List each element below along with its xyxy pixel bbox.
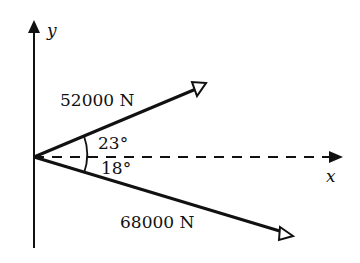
lower-force-label: 68000 N: [120, 212, 194, 232]
y-axis-arrowhead-icon: [28, 20, 40, 33]
x-axis-label: x: [326, 166, 336, 186]
y-axis-label: y: [46, 20, 57, 40]
angle-arc: [84, 136, 87, 173]
upper-angle-label: 23°: [98, 133, 128, 153]
upper-force-arrowhead-icon: [192, 82, 206, 96]
force-diagram: y x 52000 N 68000 N 23° 18°: [0, 0, 360, 263]
lower-angle-label: 18°: [101, 158, 131, 178]
upper-force-label: 52000 N: [60, 90, 134, 110]
lower-force-arrowhead-icon: [279, 227, 293, 240]
x-axis-arrowhead-icon: [329, 151, 343, 163]
